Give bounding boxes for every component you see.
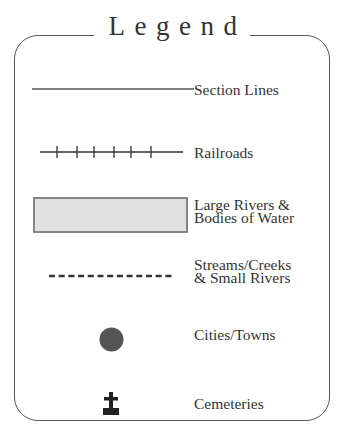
legend-label-section-lines: Section Lines (194, 83, 279, 96)
legend-label-cities: Cities/Towns (194, 328, 276, 341)
legend-label-streams-line2: & Small Rivers (194, 272, 291, 285)
railroad-icon (40, 144, 184, 160)
cemetery-cross-icon (102, 392, 120, 416)
legend-label-railroads: Railroads (194, 146, 253, 159)
city-dot-icon (99, 327, 125, 353)
water-area-icon (33, 197, 188, 233)
stream-dashed-line-icon (49, 271, 175, 281)
section-line-icon (32, 84, 194, 94)
legend-label-water-line2: Bodies of Water (194, 212, 294, 225)
legend-label-streams: Streams/Creeks & Small Rivers (194, 259, 291, 284)
legend-label-water: Large Rivers & Bodies of Water (194, 199, 294, 224)
legend-title: Legend (96, 8, 250, 44)
legend-label-cemeteries: Cemeteries (194, 397, 264, 410)
